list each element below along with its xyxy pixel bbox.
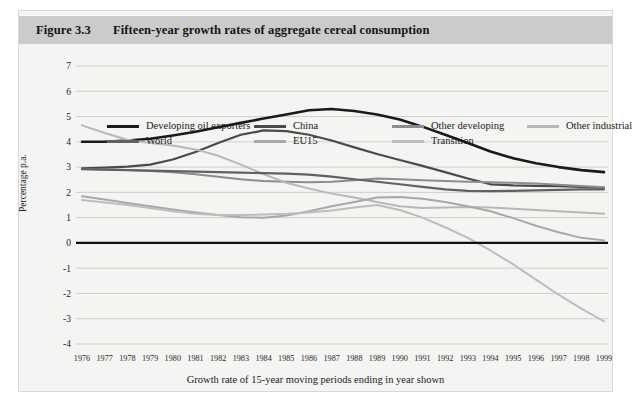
- x-tick-label: 1979: [142, 354, 158, 363]
- series-line: [82, 125, 604, 213]
- x-tick-label: 1988: [346, 354, 362, 363]
- series-line: [82, 130, 604, 187]
- plot-area: Percentage p.a. 76543210-1-2-3-4 1976197…: [19, 44, 612, 391]
- y-tick-label: -3: [63, 314, 71, 324]
- x-tick-label: 1983: [233, 354, 249, 363]
- x-tick-label: 1994: [482, 354, 498, 363]
- figure-title: Fifteen-year growth rates of aggregate c…: [113, 23, 430, 38]
- x-tick-label: 1981: [187, 354, 203, 363]
- x-tick-label: 1995: [505, 354, 521, 363]
- x-tick-label: 1997: [550, 354, 566, 363]
- x-tick-label: 1977: [97, 354, 113, 363]
- y-tick-label: 4: [66, 137, 71, 147]
- x-tick-label: 1996: [528, 354, 544, 363]
- x-tick-label: 1976: [74, 354, 90, 363]
- y-tick-label: -2: [63, 289, 71, 299]
- x-tick-label: 1989: [369, 354, 385, 363]
- x-tick-label: 1978: [119, 354, 135, 363]
- x-axis-caption: Growth rate of 15-year moving periods en…: [19, 374, 612, 385]
- x-tick-label: 1982: [210, 354, 226, 363]
- line-chart: 76543210-1-2-3-4 19761977197819791980198…: [19, 44, 612, 374]
- x-tick-label: 1998: [573, 354, 589, 363]
- x-tick-labels: 1976197719781979198019811982198319841985…: [74, 354, 612, 363]
- y-tick-label: 3: [66, 162, 71, 172]
- x-tick-label: 1991: [414, 354, 430, 363]
- x-tick-label: 1993: [460, 354, 476, 363]
- x-tick-label: 1992: [437, 354, 453, 363]
- series-lines: [82, 109, 604, 321]
- y-axis-title: Percentage p.a.: [18, 154, 28, 212]
- y-tick-label: 1: [66, 213, 71, 223]
- x-tick-label: 1999: [596, 354, 612, 363]
- y-tick-labels: 76543210-1-2-3-4: [63, 61, 71, 349]
- y-tick-label: -1: [63, 264, 71, 274]
- series-line: [82, 200, 604, 321]
- y-tick-label: -4: [63, 339, 71, 349]
- y-tick-label: 0: [66, 238, 71, 248]
- series-line: [82, 196, 604, 240]
- y-tick-label: 7: [66, 61, 71, 71]
- x-tick-label: 1986: [301, 354, 317, 363]
- y-tick-label: 6: [66, 87, 71, 97]
- x-tick-label: 1980: [165, 354, 181, 363]
- x-tick-label: 1990: [392, 354, 408, 363]
- x-tick-label: 1985: [278, 354, 294, 363]
- x-tick-label: 1984: [255, 354, 271, 363]
- y-tick-label: 2: [66, 188, 71, 198]
- x-tick-label: 1987: [323, 354, 339, 363]
- figure-title-bar: Figure 3.3 Fifteen-year growth rates of …: [19, 16, 612, 44]
- figure-number: Figure 3.3: [36, 23, 91, 38]
- y-tick-label: 5: [66, 112, 71, 122]
